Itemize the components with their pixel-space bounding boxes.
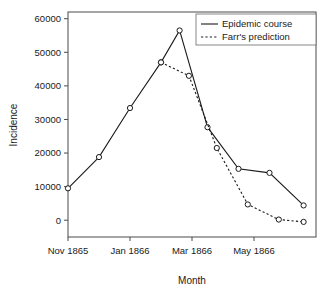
data-point-marker <box>177 28 182 33</box>
data-point-marker <box>301 203 306 208</box>
y-tick-label: 30000 <box>35 114 61 125</box>
y-tick-label: 40000 <box>35 80 61 91</box>
y-tick-label: 0 <box>56 215 61 226</box>
x-tick-label: Mar 1866 <box>172 245 212 256</box>
data-point-marker <box>186 73 191 78</box>
chart-canvas: 0100002000030000400005000060000 Nov 1865… <box>0 0 326 291</box>
data-point-marker <box>276 217 281 222</box>
x-tick-label: May 1866 <box>233 245 275 256</box>
data-point-marker <box>65 186 70 191</box>
legend-label: Epidemic course <box>222 18 292 29</box>
y-tick-label: 20000 <box>35 147 61 158</box>
x-axis-title: Month <box>178 275 206 286</box>
legend-label: Farr's prediction <box>222 31 290 42</box>
data-point-marker <box>214 145 219 150</box>
data-point-marker <box>301 219 306 224</box>
y-tick-label: 50000 <box>35 47 61 58</box>
data-point-marker <box>158 60 163 65</box>
x-tick-label: Jan 1866 <box>110 245 149 256</box>
x-tick-label: Nov 1865 <box>48 245 89 256</box>
data-point-marker <box>96 154 101 159</box>
data-point-marker <box>236 166 241 171</box>
epidemic-chart: 0100002000030000400005000060000 Nov 1865… <box>0 0 326 291</box>
y-tick-label: 60000 <box>35 13 61 24</box>
data-point-marker <box>245 202 250 207</box>
data-point-marker <box>267 170 272 175</box>
y-tick-label: 10000 <box>35 181 61 192</box>
data-point-marker <box>127 105 132 110</box>
chart-legend: Epidemic courseFarr's prediction <box>196 14 316 45</box>
y-axis-title: Incidence <box>8 103 19 146</box>
